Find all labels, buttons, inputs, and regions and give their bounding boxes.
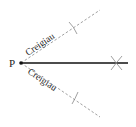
upper-arc-mark xyxy=(69,22,77,34)
point-label: P xyxy=(9,57,15,69)
construction-diagram: P Creigiau Creigiau xyxy=(0,0,136,127)
lower-arc-mark xyxy=(72,92,78,104)
lower-ray-label: Creigiau xyxy=(26,66,59,93)
upper-ray-label: Creigiau xyxy=(24,31,57,58)
point-p-dot xyxy=(19,61,23,65)
